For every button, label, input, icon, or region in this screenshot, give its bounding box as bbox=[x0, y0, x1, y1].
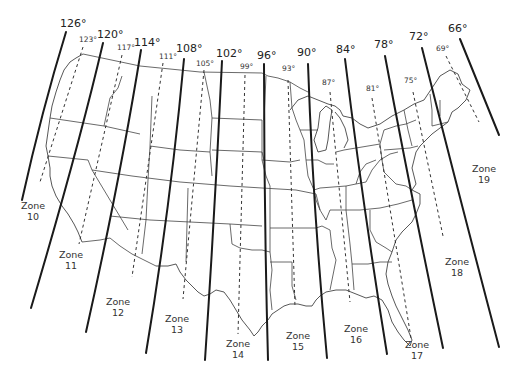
zone-boundary-line bbox=[22, 32, 66, 200]
zone-number-label: 14 bbox=[232, 349, 244, 360]
zone-boundary-label: 96° bbox=[257, 49, 277, 62]
zone-name-label: Zone bbox=[226, 338, 250, 349]
zone-boundary-line bbox=[205, 61, 222, 360]
central-meridian-label: 93° bbox=[282, 64, 296, 73]
zone-number-label: 10 bbox=[27, 211, 39, 222]
zone-number-label: 19 bbox=[478, 174, 490, 185]
central-meridian-line bbox=[132, 63, 163, 277]
zone-name-label: Zone bbox=[106, 296, 130, 307]
zone-boundary-label: 78° bbox=[374, 38, 394, 51]
central-meridian-line bbox=[183, 70, 204, 299]
zone-boundary-line bbox=[264, 64, 268, 360]
zone-name-label: Zone bbox=[59, 249, 83, 260]
zone-number-label: 16 bbox=[350, 334, 362, 345]
map-canvas: 123°117°111°105°99°93°87°81°75°69° 126°1… bbox=[0, 0, 520, 381]
zone-boundary-label: 66° bbox=[448, 22, 468, 35]
central-meridian-label: 111° bbox=[159, 52, 177, 61]
central-meridian-lines: 123°117°111°105°99°93°87°81°75°69° bbox=[40, 35, 479, 338]
central-meridian-label: 105° bbox=[196, 59, 214, 68]
central-meridian-label: 87° bbox=[322, 78, 336, 87]
zone-name-label: Zone bbox=[445, 256, 469, 267]
central-meridian-label: 99° bbox=[240, 62, 254, 71]
zone-number-label: 11 bbox=[65, 260, 77, 271]
zone-boundary-label: 120° bbox=[97, 28, 124, 41]
zone-boundary-label: 90° bbox=[297, 46, 317, 59]
central-meridian-line bbox=[446, 56, 479, 122]
zone-name-label: Zone bbox=[21, 200, 45, 211]
zone-number-label: 17 bbox=[411, 350, 423, 361]
zone-boundary-label: 108° bbox=[176, 42, 203, 55]
central-meridian-label: 123° bbox=[79, 35, 97, 44]
utm-zone-map: 123°117°111°105°99°93°87°81°75°69° 126°1… bbox=[0, 0, 520, 381]
zone-boundary-label: 102° bbox=[216, 47, 243, 60]
central-meridian-line bbox=[238, 75, 245, 334]
central-meridian-label: 117° bbox=[117, 43, 135, 52]
zone-boundary-label: 114° bbox=[134, 36, 161, 49]
zone-boundary-label: 72° bbox=[409, 30, 429, 43]
zone-boundary-label: 126° bbox=[60, 17, 87, 30]
central-meridian-line bbox=[40, 47, 83, 182]
zone-name-label: Zone bbox=[286, 330, 310, 341]
central-meridian-line bbox=[330, 92, 350, 302]
zone-name-label: Zone bbox=[165, 313, 189, 324]
zone-name-label: Zone bbox=[344, 323, 368, 334]
zone-number-label: 15 bbox=[292, 341, 304, 352]
zone-boundary-lines: 126°120°114°108°102°96°90°84°78°72°66° bbox=[22, 17, 499, 360]
zone-boundary-label: 84° bbox=[336, 43, 356, 56]
zone-boundary-line bbox=[345, 59, 387, 354]
zone-number-label: 12 bbox=[112, 307, 124, 318]
zone-number-label: 13 bbox=[171, 324, 183, 335]
zone-number-label: 18 bbox=[451, 267, 463, 278]
zone-name-label: Zone bbox=[472, 163, 496, 174]
central-meridian-label: 69° bbox=[436, 44, 450, 53]
central-meridian-line bbox=[79, 55, 122, 244]
zone-name-label: Zone bbox=[405, 339, 429, 350]
central-meridian-label: 81° bbox=[366, 84, 380, 93]
central-meridian-label: 75° bbox=[404, 76, 418, 85]
